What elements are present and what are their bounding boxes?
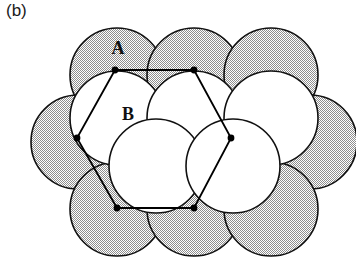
cell-vertex-dot (112, 67, 119, 74)
cell-vertex-dot (228, 135, 235, 142)
figure-panel-b: (b) (0, 0, 356, 262)
cell-vertex-dot (191, 67, 198, 74)
cell-vertex-dot (74, 135, 81, 142)
label-layer-b: B (122, 104, 134, 124)
label-layer-a: A (112, 38, 125, 58)
white-sphere (186, 119, 280, 213)
cell-vertex-dot (191, 205, 198, 212)
cell-vertex-dot (114, 205, 121, 212)
sphere-packing-diagram: A B (0, 0, 356, 262)
